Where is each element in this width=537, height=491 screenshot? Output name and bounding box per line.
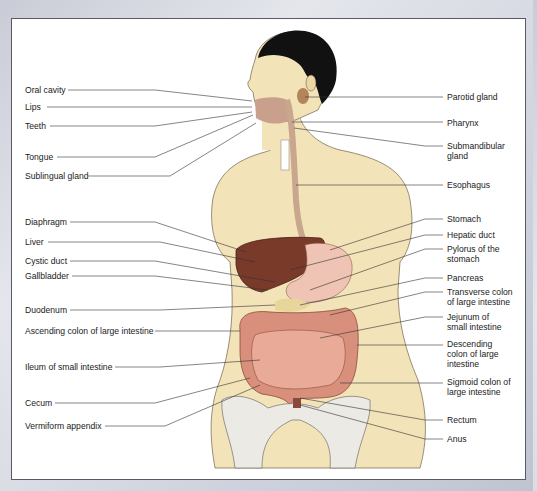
trachea [281,140,289,170]
label-rectum: Rectum [447,415,537,425]
label-ascending-colon: Ascending colon of large intestine [25,326,154,336]
label-transverse-colon: Transverse colon of large intestine [447,287,519,307]
label-sigmoid-colon: Sigmoid colon of large intestine [447,377,517,397]
label-stomach: Stomach [447,214,537,224]
label-esophagus: Esophagus [447,180,537,190]
label-cystic-duct: Cystic duct [25,256,67,266]
label-liver: Liver [25,237,44,247]
label-ileum: Ileum of small intestine [25,362,112,372]
label-pancreas: Pancreas [447,273,537,283]
label-jejunum: Jejunum of small intestine [447,312,507,332]
label-diaphragm: Diaphragm [25,217,67,227]
small-intestine [252,330,346,389]
label-teeth: Teeth [25,121,46,131]
label-duodenum: Duodenum [25,305,67,315]
label-parotid-gland: Parotid gland [447,92,537,102]
label-pharynx: Pharynx [447,118,537,128]
label-sublingual-gland: Sublingual gland [25,171,89,181]
label-lips: Lips [25,102,41,112]
label-hepatic-duct: Hepatic duct [447,230,537,240]
label-tongue: Tongue [25,152,53,162]
label-cecum: Cecum [25,398,52,408]
ear [306,75,316,91]
label-anus: Anus [447,434,537,444]
parotid-gland [297,88,309,104]
label-oral-cavity: Oral cavity [25,85,66,95]
label-vermiform-appendix: Vermiform appendix [25,421,101,431]
label-submandibular-gland: Submandibular gland [447,141,507,161]
label-gallbladder: Gallbladder [25,271,69,281]
label-pylorus: Pylorus of the stomach [447,244,509,264]
rectum [293,398,301,408]
label-descending-colon: Descending colon of large intestine [447,339,505,369]
